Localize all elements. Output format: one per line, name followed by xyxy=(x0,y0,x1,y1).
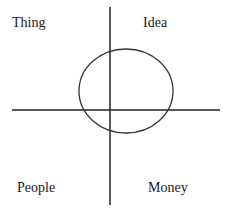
label-people: People xyxy=(17,180,55,196)
center-ellipse xyxy=(79,49,173,133)
label-money: Money xyxy=(148,180,188,196)
label-idea: Idea xyxy=(143,15,167,31)
label-thing: Thing xyxy=(12,15,45,31)
